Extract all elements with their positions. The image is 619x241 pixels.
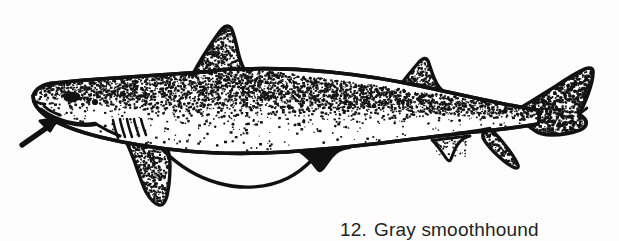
caption-number: 12. [340,219,367,240]
spiracle [92,99,98,105]
belly-line [163,150,312,187]
figure-caption: 12.Gray smoothhound [318,197,539,241]
caption-label: Gray smoothhound [374,219,539,240]
body-outline [29,66,545,153]
pelvic-fin [300,148,350,171]
pointer-arrow [22,118,58,145]
shark-body-group [22,23,600,210]
anal-fin [432,136,470,161]
illustration-figure: 12.Gray smoothhound [0,0,619,241]
